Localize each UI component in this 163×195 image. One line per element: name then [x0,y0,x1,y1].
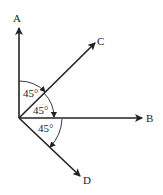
angle-label-a-c: 45° [23,87,38,99]
angle-label-b-d: 45° [38,122,53,134]
point-label-a: A [13,12,21,24]
ray-c [19,43,95,118]
point-label-d: D [83,174,91,186]
angle-label-c-b: 45° [33,104,48,116]
point-label-b: B [146,112,153,124]
point-label-c: C [97,35,104,47]
angle-diagram: 45° 45° 45° A C B D [0,0,163,195]
